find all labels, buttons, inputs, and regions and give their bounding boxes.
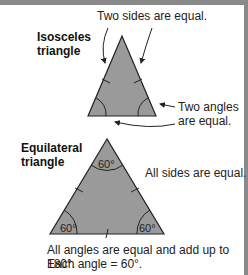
equilateral-title-line1: Equilateral: [21, 141, 82, 155]
angle-label-left: 60°: [60, 221, 77, 235]
diagram-frame: Two sides are equal. Isosceles triangle …: [0, 0, 248, 275]
isosceles-angles-note-line2: are equal.: [178, 114, 231, 128]
equilateral-footer-line2: Each angle = 60°.: [47, 257, 142, 271]
isosceles-title-line1: Isosceles: [37, 30, 91, 44]
angle-label-right: 60°: [139, 221, 156, 235]
equilateral-title-line2: triangle: [21, 155, 64, 169]
isosceles-angles-note-line1: Two angles: [178, 100, 239, 114]
equilateral-sides-note: All sides are equal.: [145, 166, 246, 180]
angle-label-top: 60°: [98, 157, 115, 171]
isosceles-title-line2: triangle: [37, 44, 80, 58]
isosceles-sides-note: Two sides are equal.: [97, 9, 207, 23]
